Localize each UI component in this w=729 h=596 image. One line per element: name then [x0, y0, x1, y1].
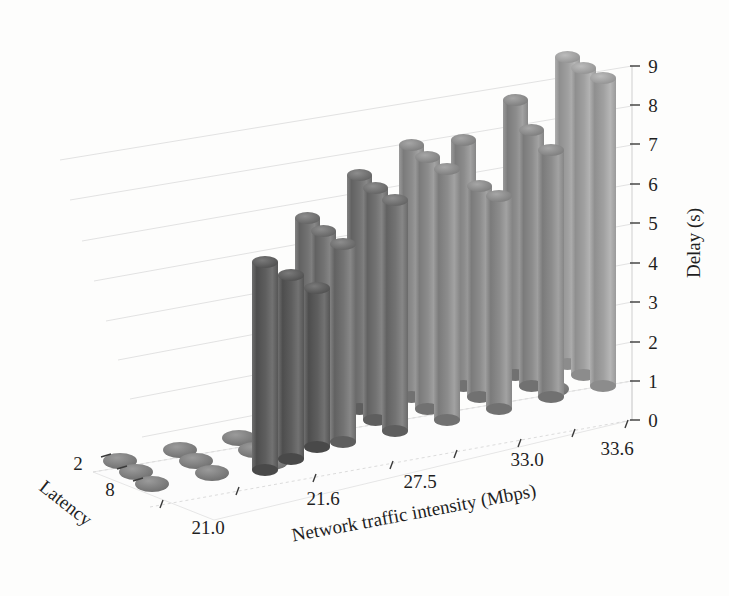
z-tick-0: 0 [648, 410, 658, 431]
z-tick-5: 5 [648, 213, 658, 234]
bar [330, 238, 356, 448]
chart-container: 9 8 7 6 5 4 3 2 1 0 Delay (s) 21.0 21.6 … [0, 0, 729, 596]
z-tick-2: 2 [648, 332, 658, 353]
x-tick-21-0: 21.0 [191, 517, 224, 538]
z-tick-4: 4 [648, 253, 658, 274]
z-tick-8: 8 [648, 95, 658, 116]
bar [434, 163, 460, 426]
z-tick-labels: 9 8 7 6 5 4 3 2 1 0 [648, 56, 658, 431]
z-tick-3: 3 [648, 292, 658, 313]
x-tick-33-0: 33.0 [510, 449, 543, 470]
z-axis [630, 66, 640, 420]
z-tick-1: 1 [648, 371, 658, 392]
bar [252, 256, 278, 476]
z-axis-title: Delay (s) [683, 208, 705, 278]
bar [538, 144, 564, 403]
z-tick-6: 6 [648, 174, 658, 195]
bar [304, 282, 330, 453]
y-axis-title: Latency [35, 476, 97, 531]
bar [278, 269, 304, 465]
bar [382, 194, 408, 437]
bar [486, 190, 512, 415]
x-tick-27-5: 27.5 [403, 471, 436, 492]
x-tick-33-6: 33.6 [600, 438, 633, 459]
x-tick-21-6: 21.6 [306, 488, 339, 509]
z-tick-9: 9 [648, 56, 658, 77]
y-tick-8: 8 [105, 479, 115, 500]
z-tick-7: 7 [648, 134, 658, 155]
y-tick-2: 2 [73, 453, 83, 474]
bar [590, 72, 616, 392]
chart-svg: 9 8 7 6 5 4 3 2 1 0 Delay (s) 21.0 21.6 … [0, 0, 729, 596]
